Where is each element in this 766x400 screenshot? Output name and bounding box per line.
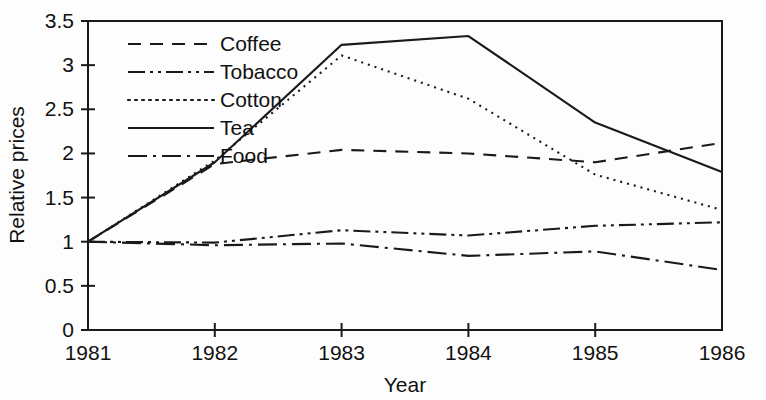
y-tick-label: 2.5 — [45, 97, 74, 120]
x-tick-label: 1986 — [699, 341, 746, 364]
y-tick-label: 0 — [62, 318, 74, 341]
legend-label-coffee: Coffee — [220, 32, 282, 55]
legend-label-tobacco: Tobacco — [220, 60, 298, 83]
x-axis-title: Year — [384, 373, 426, 396]
x-tick-label: 1982 — [191, 341, 238, 364]
y-axis-title: Relative prices — [5, 106, 28, 244]
series-line-cotton — [88, 55, 722, 241]
series-group — [88, 36, 722, 270]
chart-container: 00.511.522.533.5 19811982198319841985198… — [0, 0, 766, 400]
x-tick-label: 1985 — [572, 341, 619, 364]
y-tick-label: 2 — [62, 141, 74, 164]
series-line-tobacco — [88, 222, 722, 242]
chart-legend: CoffeeTobaccoCottonTeaFood — [128, 32, 298, 167]
x-tick-label: 1981 — [65, 341, 112, 364]
series-line-food — [88, 242, 722, 270]
x-tick-label: 1984 — [445, 341, 492, 364]
line-chart: 00.511.522.533.5 19811982198319841985198… — [0, 0, 766, 400]
legend-label-tea: Tea — [220, 116, 254, 139]
plot-border — [88, 21, 722, 330]
y-tick-label: 3.5 — [45, 9, 74, 32]
y-tick-label: 1 — [62, 230, 74, 253]
series-line-tea — [88, 36, 722, 242]
y-tick-label: 0.5 — [45, 274, 74, 297]
legend-label-food: Food — [220, 144, 268, 167]
y-tick-label: 1.5 — [45, 186, 74, 209]
legend-label-cotton: Cotton — [220, 88, 282, 111]
x-tick-label: 1983 — [318, 341, 365, 364]
plot-frame — [88, 21, 722, 330]
y-tick-label: 3 — [62, 53, 74, 76]
series-line-coffee — [88, 143, 722, 242]
